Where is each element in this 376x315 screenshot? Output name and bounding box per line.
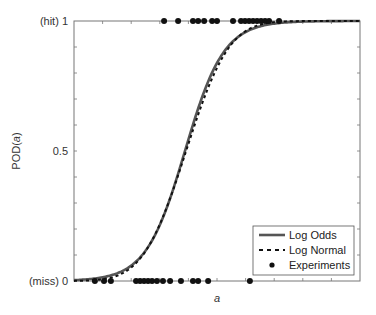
miss-marker: [154, 278, 160, 284]
hit-marker: [276, 18, 282, 24]
legend-label-experiments: Experiments: [289, 259, 351, 271]
miss-marker: [160, 278, 166, 284]
miss-marker: [108, 278, 114, 284]
ytick-label-bottom: (miss) 0: [29, 275, 68, 287]
hit-marker: [195, 18, 201, 24]
miss-marker: [195, 278, 201, 284]
y-axis-label: POD(a): [10, 132, 22, 169]
ytick-label-top: (hit) 1: [40, 15, 68, 27]
hit-marker: [161, 18, 167, 24]
hit-marker: [201, 18, 207, 24]
miss-marker: [101, 278, 107, 284]
miss-marker: [247, 278, 253, 284]
hit-marker: [214, 18, 220, 24]
hit-marker: [190, 18, 196, 24]
legend: Log Odds Log Normal Experiments: [253, 226, 354, 275]
ytick-label-mid: 0.5: [53, 145, 68, 157]
hit-marker: [230, 18, 236, 24]
miss-marker: [178, 278, 184, 284]
hit-marker: [175, 18, 181, 24]
miss-marker: [167, 278, 173, 284]
x-axis-label: a: [214, 292, 220, 304]
hit-marker: [266, 18, 272, 24]
pod-chart: (hit) 1 0.5 (miss) 0 a POD(a) Log Odds L…: [0, 0, 376, 315]
legend-label-log-normal: Log Normal: [289, 244, 346, 256]
legend-label-log-odds: Log Odds: [289, 229, 337, 241]
miss-marker: [190, 278, 196, 284]
legend-marker-icon: [269, 262, 274, 267]
miss-marker: [205, 278, 211, 284]
miss-marker: [92, 278, 98, 284]
